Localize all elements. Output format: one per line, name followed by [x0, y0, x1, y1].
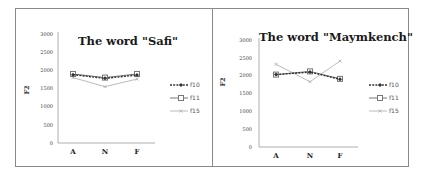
legend: f10f11f15	[369, 81, 399, 114]
legend-label: f10	[190, 81, 200, 88]
y-tick-label: 2000	[40, 67, 53, 73]
x-tick-label: A	[69, 147, 76, 156]
x-tick-label: N	[102, 147, 109, 156]
y-tick-label: 0	[50, 140, 53, 146]
y-tick-label: 2000	[239, 72, 252, 78]
chart-title: The word "Safi"	[78, 34, 178, 48]
y-tick-label: 3000	[40, 31, 53, 37]
x-tick-label: N	[307, 151, 314, 160]
y-axis-label: F2	[23, 85, 31, 94]
series-f10	[71, 73, 139, 81]
legend-item-f11: f11	[170, 94, 200, 101]
y-axis-label: F2	[219, 77, 227, 86]
legend-label: f15	[389, 107, 399, 114]
x-tick-label: F	[338, 151, 343, 160]
y-tick-label: 500	[43, 122, 53, 128]
series-f11	[274, 69, 343, 81]
square-marker-icon	[179, 96, 184, 101]
y-tick-label: 1500	[40, 85, 53, 91]
chart-safi: 050010001500200025003000ANFThe word "Saf…	[23, 31, 200, 156]
y-tick-label: 500	[242, 126, 252, 132]
legend-item-f11: f11	[369, 94, 399, 101]
legend-label: f10	[389, 81, 399, 88]
legend-item-f15: f15	[369, 107, 399, 114]
square-marker-icon	[378, 96, 383, 101]
y-tick-label: 1000	[40, 103, 53, 109]
legend-item-f10: f10	[369, 81, 399, 88]
legend-label: f11	[389, 94, 399, 101]
legend-label: f15	[190, 107, 200, 114]
legend-item-f10: f10	[170, 81, 200, 88]
legend: f10f11f15	[170, 81, 200, 114]
x-marker-icon	[339, 60, 342, 63]
y-tick-label: 1000	[239, 108, 252, 114]
y-tick-label: 0	[249, 144, 252, 150]
y-tick-label: 2500	[239, 55, 252, 61]
y-tick-label: 1500	[239, 90, 252, 96]
legend-item-f15: f15	[170, 107, 200, 114]
series-f10	[274, 70, 342, 81]
charts-canvas: 050010001500200025003000ANFThe word "Saf…	[0, 0, 422, 178]
y-tick-label: 2500	[40, 49, 53, 55]
chart-maymkench: 050010001500200025003000ANFThe word "May…	[219, 30, 413, 160]
diamond-marker-icon	[179, 83, 183, 87]
x-tick-label: F	[135, 147, 140, 156]
chart-title: The word "Maymkench"	[259, 30, 413, 44]
y-tick-label: 3000	[239, 37, 252, 43]
legend-label: f11	[190, 94, 200, 101]
x-tick-label: A	[272, 151, 279, 160]
diamond-marker-icon	[378, 83, 382, 87]
